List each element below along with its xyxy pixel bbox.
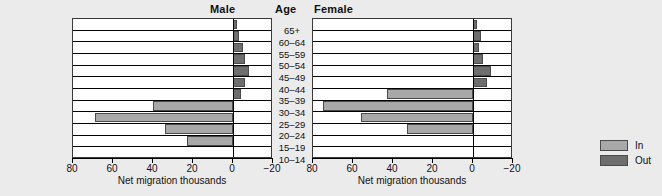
age-group-label: 40–44 [273, 84, 311, 95]
bar-row [313, 124, 511, 136]
bar-row [313, 66, 511, 78]
bar-row [73, 77, 271, 89]
axis-tick-label: 60 [106, 163, 117, 174]
age-group-label: 65+ [273, 25, 311, 36]
bar-row [73, 66, 271, 78]
axis-tick-label: 80 [306, 163, 317, 174]
bar-row [73, 124, 271, 136]
age-group-label: 55–59 [273, 49, 311, 60]
legend-label: Out [635, 155, 651, 166]
legend: InOut [600, 140, 651, 170]
age-group-label: 20–24 [273, 130, 311, 141]
bar-row [313, 42, 511, 54]
female-axis-title: Net migration thousands [358, 175, 466, 186]
bar-out [473, 54, 483, 64]
bar-in [165, 124, 233, 134]
female-x-axis: 806040200−20 [312, 158, 512, 164]
axis-tick-label: −20 [504, 163, 521, 174]
legend-swatch-out [600, 155, 628, 166]
bar-row [313, 31, 511, 43]
bar-in [387, 89, 473, 99]
age-label-column: 65+60–6455–5950–5445–4940–4435–3930–3425… [273, 18, 311, 158]
bar-in [407, 124, 473, 134]
bar-row [313, 136, 511, 148]
age-column-title: Age [275, 3, 296, 15]
bar-out [233, 43, 243, 53]
male-x-axis: 806040200−20 [72, 158, 272, 164]
axis-tick-label: 40 [386, 163, 397, 174]
bar-in [323, 101, 473, 111]
bar-out [233, 66, 249, 76]
female-plot-area [312, 18, 512, 158]
axis-tick-label: 80 [66, 163, 77, 174]
bar-row [73, 101, 271, 113]
bar-in [187, 136, 233, 146]
axis-tick-label: 0 [229, 163, 235, 174]
chart-figure: Male Age Female 65+60–6455–5950–5445–494… [0, 0, 662, 196]
legend-item: Out [600, 155, 651, 166]
male-panel-title: Male [210, 3, 235, 15]
legend-swatch-in [600, 140, 628, 151]
bar-out [473, 78, 487, 88]
bar-out [473, 66, 491, 76]
bar-in [153, 101, 233, 111]
female-zero-line [473, 19, 474, 157]
bar-row [313, 89, 511, 101]
bar-in [361, 113, 473, 123]
legend-label: In [635, 140, 643, 151]
bar-row [313, 54, 511, 66]
bar-row [73, 112, 271, 124]
axis-tick-label: −20 [264, 163, 281, 174]
female-axis-line [312, 158, 512, 159]
age-group-label: 45–49 [273, 72, 311, 83]
age-group-label: 50–54 [273, 60, 311, 71]
bar-row [73, 89, 271, 101]
age-group-label: 30–34 [273, 107, 311, 118]
bar-row [73, 31, 271, 43]
bar-out [233, 54, 245, 64]
male-zero-line [233, 19, 234, 157]
bar-out [233, 78, 245, 88]
female-bar-rows [313, 19, 511, 157]
bar-row [313, 101, 511, 113]
bar-row [313, 19, 511, 31]
male-axis-title: Net migration thousands [118, 175, 226, 186]
bar-row [313, 77, 511, 89]
bar-in [95, 113, 233, 123]
male-bar-rows [73, 19, 271, 157]
bar-out [233, 89, 241, 99]
axis-tick-label: 20 [186, 163, 197, 174]
bar-row [313, 112, 511, 124]
age-group-label: 25–29 [273, 119, 311, 130]
axis-tick-label: 0 [469, 163, 475, 174]
axis-tick-label: 20 [426, 163, 437, 174]
bar-row [73, 42, 271, 54]
axis-tick-label: 40 [146, 163, 157, 174]
bar-row [73, 54, 271, 66]
bar-row [73, 19, 271, 31]
age-group-label: 15–19 [273, 142, 311, 153]
male-plot-area [72, 18, 272, 158]
male-axis-line [72, 158, 272, 159]
legend-item: In [600, 140, 651, 151]
axis-tick-label: 60 [346, 163, 357, 174]
female-panel-title: Female [314, 3, 353, 15]
age-group-label: 35–39 [273, 95, 311, 106]
bar-out [473, 31, 481, 41]
bar-row [73, 136, 271, 148]
age-group-label: 60–64 [273, 37, 311, 48]
